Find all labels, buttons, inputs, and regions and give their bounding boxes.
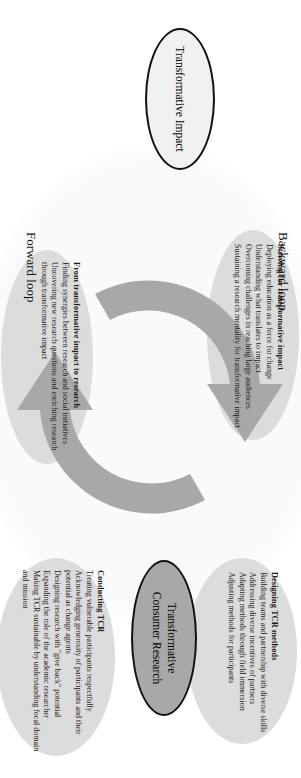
list-item: Deploying education as a force for chang… <box>263 244 274 440</box>
panel-heading-conducting: Conducting TCR <box>95 570 105 760</box>
list-item: Adjusting methods for participants <box>225 572 236 744</box>
node-tcr-label: Transformative Consumer Research <box>149 592 178 684</box>
node-tcr-label-line2: Consumer Research <box>149 592 164 684</box>
node-tcr-label-line1: Transformative <box>164 592 179 684</box>
node-transformative-impact[interactable]: Transformative Impact <box>145 28 215 170</box>
panel-heading-designing: Designing TCR methods <box>269 572 279 744</box>
list-item: Understanding what translates to impact <box>253 244 264 440</box>
list-item: Finding synergies between research and s… <box>59 262 70 462</box>
list-item: Adapting methods through field immersion <box>236 572 247 744</box>
list-item: Uncovering new research questions and en… <box>38 262 59 462</box>
list-item: Sustaining a research mentality for tran… <box>231 244 242 440</box>
list-item: Designing research with "give back" pote… <box>51 570 62 760</box>
list-item: Expanding the role of the academic resea… <box>41 570 52 760</box>
caption-backward-loop: Backward loop <box>275 232 291 311</box>
list-item: Addressing diverse incentives of partner… <box>247 572 258 744</box>
figure-canvas: Transformative Impact Transformative Con… <box>0 0 301 778</box>
panel-heading-from-impact: From transformative impact to research <box>71 262 81 462</box>
list-item: Building teams and partnership with dive… <box>257 572 268 744</box>
list-item: Overcoming challenges in reaching large … <box>242 244 253 440</box>
text-panel-from-impact-to-research: From transformative impact to research F… <box>38 262 81 462</box>
text-panel-conducting-tcr: Conducting TCR Treating vulnerable parti… <box>19 570 105 760</box>
panel-list-from-impact: Finding synergies between research and s… <box>38 262 70 462</box>
node-transformative-consumer-research[interactable]: Transformative Consumer Research <box>131 560 197 716</box>
node-transformative-impact-label: Transformative Impact <box>173 46 188 151</box>
list-item: Acknowledging generosity of participants… <box>62 570 83 760</box>
list-item: Making TCR sustainable by understanding … <box>19 570 40 760</box>
caption-forward-loop: Forward loop <box>23 232 39 302</box>
panel-list-designing: Building teams and partnership with dive… <box>225 572 268 744</box>
list-item: Treating vulnerable participants respect… <box>83 570 94 760</box>
panel-list-conducting: Treating vulnerable participants respect… <box>19 570 94 760</box>
text-panel-designing-tcr-methods: Designing TCR methods Building teams and… <box>225 572 279 744</box>
panel-list-striving: Deploying education as a force for chang… <box>231 244 274 440</box>
